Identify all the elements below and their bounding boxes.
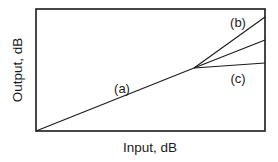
label-a: (a) [114,81,130,96]
compression-chart: (a) (b) (c) Input, dB Output, dB [0,0,278,162]
line-a [36,68,194,131]
label-c: (c) [230,71,245,86]
y-axis-label: Output, dB [10,38,25,103]
x-axis-label: Input, dB [123,140,177,155]
label-b: (b) [230,15,246,30]
